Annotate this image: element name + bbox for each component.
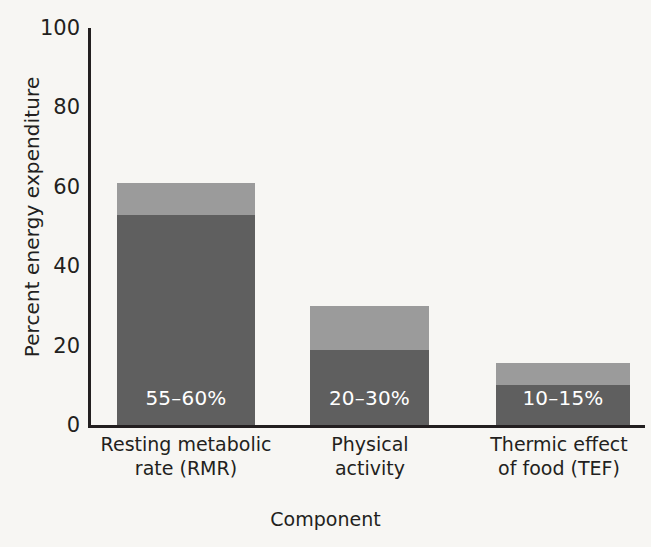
y-tick-0: 0 [2, 415, 80, 436]
x-axis-line [88, 425, 645, 428]
bar-tef-value-label: 10–15% [496, 388, 630, 408]
category-label-physical-activity-line2: activity [280, 456, 460, 480]
category-label-rmr: Resting metabolic rate (RMR) [91, 432, 281, 481]
bar-physical-activity[interactable]: 20–30% [310, 306, 429, 425]
y-axis-tick-labels: 100 80 60 40 20 0 [0, 0, 80, 547]
x-axis-category-labels: Resting metabolic rate (RMR) Physical ac… [91, 432, 645, 492]
y-tick-80: 80 [2, 97, 80, 118]
bar-tef[interactable]: 10–15% [496, 363, 630, 425]
x-axis-title: Component [0, 508, 651, 530]
category-label-tef-line2: of food (TEF) [469, 456, 649, 480]
category-label-physical-activity: Physical activity [280, 432, 460, 481]
category-label-rmr-line2: rate (RMR) [91, 456, 281, 480]
bar-physical-activity-value-label: 20–30% [310, 388, 429, 408]
y-tick-100: 100 [2, 18, 80, 39]
y-tick-60: 60 [2, 177, 80, 198]
category-label-tef: Thermic effect of food (TEF) [469, 432, 649, 481]
bar-rmr-value-label: 55–60% [117, 388, 255, 408]
bar-rmr[interactable]: 55–60% [117, 183, 255, 425]
category-label-physical-activity-line1: Physical [280, 432, 460, 456]
bar-chart: Percent energy expenditure 100 80 60 40 … [0, 0, 651, 547]
y-tick-40: 40 [2, 256, 80, 277]
category-label-tef-line1: Thermic effect [469, 432, 649, 456]
y-tick-20: 20 [2, 336, 80, 357]
category-label-rmr-line1: Resting metabolic [91, 432, 281, 456]
plot-area: 55–60% 20–30% 10–15% [91, 28, 645, 425]
